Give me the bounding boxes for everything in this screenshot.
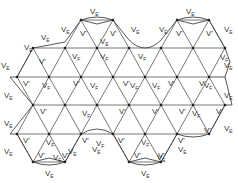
vprime-label: V' [152, 107, 159, 116]
edge-vertex-label: VE [1, 61, 10, 71]
edge-vertex-label: VE [224, 91, 233, 101]
edge-vertex-label: VE [61, 25, 70, 35]
lattice-edge [129, 105, 145, 134]
lattice-edge [49, 77, 65, 105]
lattice-vertex [160, 47, 163, 50]
lattice-edge [17, 105, 33, 134]
vprime-label: V' [80, 29, 87, 38]
face-vertex-label: VF [130, 81, 138, 91]
lattice-edge [193, 48, 209, 77]
vprime-label: V' [168, 79, 175, 88]
vprime-label: V' [38, 151, 45, 160]
lattice-vertex [16, 133, 19, 136]
triangular-lattice-diagram: VEVEVEVEVEVEVEVEVEVEVEVEVEVEVEVEVEVEVEVE… [0, 0, 238, 183]
edge-vertex-label: VE [186, 7, 195, 17]
face-vertex-label: VF [152, 81, 160, 91]
vprime-label: V' [82, 136, 89, 145]
vprime-label: V' [23, 136, 30, 145]
vprime-label: V' [176, 29, 183, 38]
edge-vertex-label: VE [224, 124, 233, 134]
vprime-label: V' [204, 126, 211, 135]
face-vertex-label: VF [204, 81, 212, 91]
lattice-vertex [16, 76, 19, 79]
vprime-label: V' [73, 79, 80, 88]
lattice-graphic: VEVEVEVEVEVEVEVEVEVEVEVEVEVEVEVEVEVEVEVE… [0, 0, 238, 183]
face-vertex-label: VF [72, 52, 80, 62]
lattice-vertex [80, 76, 83, 79]
lattice-vertex [128, 47, 131, 50]
lattice-vertex [112, 76, 115, 79]
vprime-label: V' [206, 29, 213, 38]
face-vertex-label: VF [46, 138, 54, 148]
edge-vertex-label: VE [24, 43, 33, 53]
lattice-edge [97, 77, 113, 105]
face-vertex-label: VF [90, 81, 98, 91]
lattice-vertex [80, 133, 83, 136]
lattice-vertex [224, 104, 227, 107]
lattice-vertex [144, 133, 147, 136]
boundary-edge [177, 17, 209, 20]
lattice-vertex [128, 104, 131, 107]
lattice-vertex [96, 104, 99, 107]
lattice-vertex [48, 133, 51, 136]
lattice-vertex [32, 104, 35, 107]
lattice-vertex [224, 47, 227, 50]
lattice-edge [49, 48, 65, 77]
edge-vertex-label: VE [178, 145, 187, 155]
lattice-vertex [64, 104, 67, 107]
lattice-edge [177, 48, 193, 77]
lattice-edge [65, 105, 81, 134]
vprime-label: V' [40, 107, 47, 116]
lattice-edge [145, 48, 161, 77]
edge-vertex-label: VE [100, 37, 109, 47]
lattice-edge [161, 105, 177, 134]
lattice-vertex [208, 76, 211, 79]
lattice-vertex [192, 47, 195, 50]
lattice-vertex [112, 133, 115, 136]
vprime-label: V' [118, 136, 125, 145]
vprime-label: V' [179, 107, 186, 116]
lattice-vertex [144, 76, 147, 79]
face-vertex-label: VF [100, 52, 108, 62]
edge-vertex-label: VE [4, 119, 13, 129]
face-vertex-label: VF [42, 81, 50, 91]
lattice-vertex [176, 76, 179, 79]
lattice-vertex [176, 133, 179, 136]
lattice-vertex [128, 161, 131, 164]
lattice-edge [209, 77, 225, 105]
vprime-label: V' [23, 79, 30, 88]
lattice-vertex [64, 47, 67, 50]
edge-vertex-label: VE [159, 25, 168, 35]
lattice-vertex [80, 19, 83, 22]
lattice-edge [49, 105, 65, 134]
vprime-label: V' [158, 151, 165, 160]
lattice-edge [81, 48, 97, 77]
face-vertex-label: VF [96, 139, 104, 149]
vprime-label: V' [216, 107, 223, 116]
edge-vertex-label: VE [41, 33, 50, 43]
face-vertex-label: VF [82, 109, 90, 119]
edge-vertex-label: VE [4, 91, 13, 101]
lattice-vertex [160, 104, 163, 107]
vprime-label: V' [62, 151, 69, 160]
vprime-label: V' [110, 29, 117, 38]
boundary-edge [81, 129, 113, 134]
lattice-vertex [112, 19, 115, 22]
lattice-vertex [208, 19, 211, 22]
lattice-vertex [32, 161, 35, 164]
lattice-edge [97, 105, 113, 134]
lattice-vertex [96, 47, 99, 50]
boundary-edge [177, 20, 209, 24]
lattice-edge [113, 48, 129, 77]
edge-vertex-label: VE [45, 169, 54, 179]
boundary-edge [81, 17, 113, 20]
lattice-edge [161, 48, 177, 77]
edge-vertex-label: VE [90, 7, 99, 17]
edge-vertex-label: VE [4, 147, 13, 157]
face-vertex-label: VF [138, 52, 146, 62]
boundary-edge [81, 20, 113, 24]
edge-vertex-label: VE [131, 25, 140, 35]
vprime-label: V' [134, 151, 141, 160]
vprime-label: V' [178, 136, 185, 145]
edge-vertex-label: VE [141, 169, 150, 179]
